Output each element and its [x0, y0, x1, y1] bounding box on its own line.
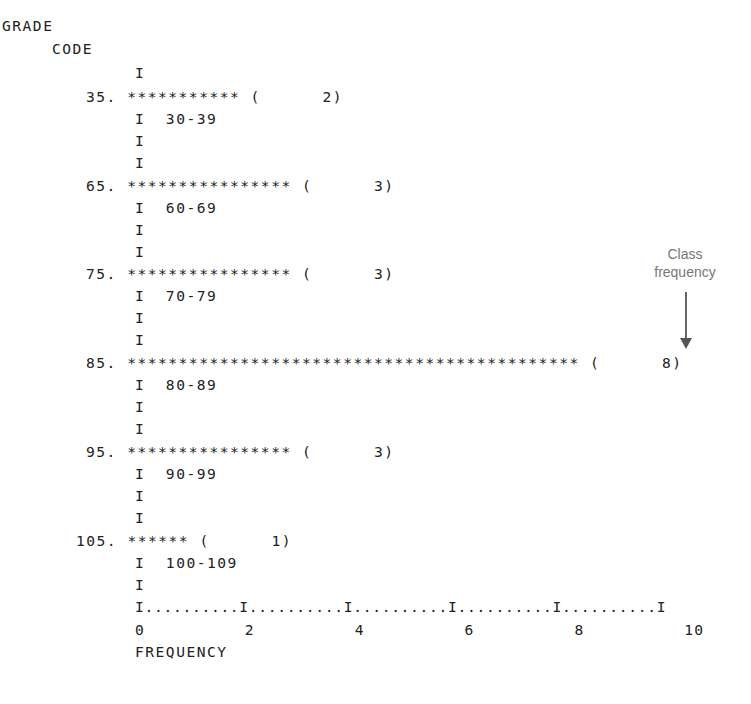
axis-segment: I: [135, 241, 145, 263]
arrow-shaft: [685, 292, 687, 340]
x-axis: I..........I..........I..........I......…: [135, 596, 666, 618]
class-range-60-69: I 60-69: [135, 197, 217, 219]
axis-segment: I: [135, 219, 145, 241]
y-title-grade: GRADE: [2, 15, 53, 37]
axis-segment: I: [135, 152, 145, 174]
arrow-down-icon: [680, 338, 692, 349]
bar-row-65: 65. **************** ( 3): [86, 175, 395, 197]
axis-segment: I: [135, 507, 145, 529]
class-range-30-39: I 30-39: [135, 108, 217, 130]
class-range-80-89: I 80-89: [135, 374, 217, 396]
axis-segment: I: [135, 130, 145, 152]
annotation-label: Class frequency: [640, 245, 730, 281]
axis-segment: I: [135, 396, 145, 418]
axis-segment: I: [135, 574, 145, 596]
annotation-line-2: frequency: [640, 263, 730, 281]
class-range-100-109: I 100-109: [135, 552, 238, 574]
axis-segment: I: [135, 329, 145, 351]
x-tick-labels: 0 2 4 6 8 10: [135, 619, 704, 641]
axis-segment: I: [135, 62, 145, 84]
annotation-line-1: Class: [640, 245, 730, 263]
bar-row-85: 85. ************************************…: [86, 352, 683, 374]
y-title-code: CODE: [52, 38, 93, 60]
axis-segment: I: [135, 485, 145, 507]
bar-row-35: 35. *********** ( 2): [86, 86, 343, 108]
axis-segment: I: [135, 307, 145, 329]
x-axis-title: FREQUENCY: [135, 641, 228, 663]
bar-row-75: 75. **************** ( 3): [86, 263, 395, 285]
class-range-90-99: I 90-99: [135, 463, 217, 485]
bar-row-95: 95. **************** ( 3): [86, 441, 395, 463]
class-range-70-79: I 70-79: [135, 285, 217, 307]
axis-segment: I: [135, 418, 145, 440]
bar-row-105: 105. ****** ( 1): [76, 530, 292, 552]
